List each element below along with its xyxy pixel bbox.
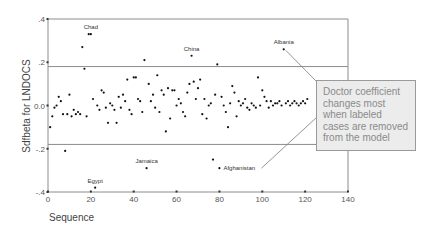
data-point <box>216 63 218 65</box>
data-point <box>173 89 175 91</box>
data-point <box>77 111 79 113</box>
data-point <box>218 167 220 169</box>
data-point <box>167 87 169 89</box>
data-point <box>130 113 132 115</box>
data-point <box>68 94 70 96</box>
data-point <box>150 100 152 102</box>
data-point <box>253 104 255 106</box>
data-point <box>306 98 308 100</box>
x-tick-mark <box>261 191 263 193</box>
data-point <box>124 100 126 102</box>
x-tick-label: 80 <box>215 195 224 204</box>
x-axis-title: Sequence <box>49 212 94 223</box>
data-point <box>135 76 137 78</box>
data-point <box>145 167 147 169</box>
x-tick-label: 40 <box>129 195 138 204</box>
data-point <box>201 113 203 115</box>
data-point <box>85 115 87 117</box>
data-point <box>212 158 214 160</box>
data-point <box>302 100 304 102</box>
data-point <box>298 104 300 106</box>
data-point <box>238 100 240 102</box>
data-point <box>96 104 98 106</box>
data-point <box>195 98 197 100</box>
data-point <box>133 76 135 78</box>
data-point <box>265 100 267 102</box>
data-point <box>225 111 227 113</box>
y-axis-title: Sdfbeta for LNDOCS <box>21 59 32 153</box>
data-point <box>118 96 120 98</box>
data-point <box>214 94 216 96</box>
data-point <box>210 102 212 104</box>
data-point <box>64 150 66 152</box>
data-point <box>154 107 156 109</box>
data-point <box>81 46 83 48</box>
data-point <box>270 100 272 102</box>
y-tick-mark <box>47 148 49 150</box>
data-point <box>289 104 291 106</box>
data-point <box>165 130 167 132</box>
data-point <box>283 48 285 50</box>
point-label-afghanistan: Afghanistan <box>223 165 255 171</box>
x-tick-mark <box>90 191 92 193</box>
point-labels: ChadChinaAlbaniaJamaicaAfghanistanEgypt <box>84 24 295 184</box>
data-point <box>62 113 64 115</box>
data-point <box>70 115 72 117</box>
data-point <box>49 126 51 128</box>
y-tick-mark <box>47 18 49 20</box>
data-point <box>248 109 250 111</box>
data-point <box>272 104 274 106</box>
data-point <box>148 83 150 85</box>
data-point <box>128 109 130 111</box>
data-point <box>79 113 81 115</box>
data-point <box>259 104 261 106</box>
data-point <box>193 81 195 83</box>
data-point <box>169 117 171 119</box>
data-point <box>105 107 107 109</box>
point-label-jamaica: Jamaica <box>135 158 158 164</box>
data-point <box>246 107 248 109</box>
data-point <box>261 89 263 91</box>
point-label-egypt: Egypt <box>87 178 103 184</box>
data-point <box>55 104 57 106</box>
point-label-albania: Albania <box>274 39 295 45</box>
data-point <box>220 96 222 98</box>
data-point <box>184 115 186 117</box>
y-tick-mark <box>47 105 49 107</box>
data-point <box>285 102 287 104</box>
data-point <box>51 115 53 117</box>
data-point <box>257 76 259 78</box>
data-point <box>208 104 210 106</box>
data-point <box>60 100 62 102</box>
data-point <box>53 107 55 109</box>
data-point <box>103 91 105 93</box>
data-point <box>186 91 188 93</box>
data-point <box>304 102 306 104</box>
data-point <box>88 33 90 35</box>
x-tick-mark <box>304 191 306 193</box>
x-tick-label: 20 <box>86 195 95 204</box>
x-tick-label: 120 <box>298 195 312 204</box>
data-point <box>120 107 122 109</box>
data-point <box>287 100 289 102</box>
data-point <box>205 117 207 119</box>
data-points <box>49 33 308 189</box>
leader-line-afghanistan <box>261 117 317 168</box>
data-point <box>92 98 94 100</box>
data-point <box>233 91 235 93</box>
x-tick-mark <box>218 191 220 193</box>
x-tick-label: 140 <box>341 195 355 204</box>
data-point <box>160 89 162 91</box>
data-point <box>291 102 293 104</box>
data-point <box>66 113 68 115</box>
data-point <box>58 96 60 98</box>
data-point <box>180 102 182 104</box>
data-point <box>163 94 165 96</box>
data-point <box>111 104 113 106</box>
data-point <box>182 111 184 113</box>
data-point <box>83 68 85 70</box>
data-point <box>276 102 278 104</box>
data-point <box>100 89 102 91</box>
data-point <box>139 100 141 102</box>
data-point <box>268 107 270 109</box>
